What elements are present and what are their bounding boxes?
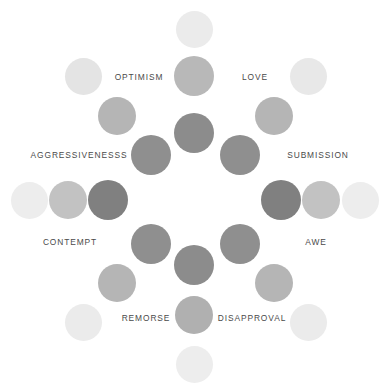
emotion-dot-ne-1: [220, 135, 260, 175]
emotion-dot-ne-2: [255, 97, 293, 135]
emotion-dot-e-3: [342, 182, 379, 219]
emotion-dot-s-3: [176, 346, 213, 383]
emotion-dot-ne-3: [290, 58, 327, 95]
emotion-dot-nw-2: [98, 97, 136, 135]
emotion-dot-e-2: [302, 181, 340, 219]
emotion-dot-sw-3: [65, 304, 102, 341]
emotion-dot-n-2: [176, 11, 213, 48]
emotion-dot-nw-1: [131, 135, 171, 175]
emotion-label-awe: AWE: [305, 238, 326, 246]
emotion-dot-se-2: [255, 264, 293, 302]
emotion-label-remorse: REMORSE: [122, 314, 171, 322]
emotion-wheel-diagram: OPTIMISMLOVEAGGRESSIVENESSSSUBMISSIONCON…: [0, 0, 392, 389]
emotion-dot-w-3: [11, 182, 48, 219]
emotion-label-optimism: OPTIMISM: [115, 73, 164, 81]
emotion-label-contempt: CONTEMPT: [43, 238, 97, 246]
emotion-label-submission: SUBMISSION: [287, 151, 349, 159]
emotion-dot-center-core: [174, 113, 214, 153]
emotion-label-disapproval: DISAPPROVAL: [218, 314, 286, 322]
emotion-dot-se-3: [290, 304, 327, 341]
emotion-dot-w-1: [88, 180, 128, 220]
emotion-dot-sw-2: [98, 264, 136, 302]
emotion-dot-s-2: [175, 296, 213, 334]
emotion-dot-n-1: [174, 56, 214, 96]
emotion-label-love: LOVE: [242, 73, 268, 81]
emotion-dot-se-1: [220, 224, 260, 264]
emotion-label-aggressivenesss: AGGRESSIVENESSS: [31, 151, 128, 159]
emotion-dot-s-1: [174, 245, 214, 285]
emotion-dot-sw-1: [131, 224, 171, 264]
emotion-dot-w-2: [49, 181, 87, 219]
emotion-dot-e-1: [261, 180, 301, 220]
emotion-dot-nw-3: [65, 58, 102, 95]
